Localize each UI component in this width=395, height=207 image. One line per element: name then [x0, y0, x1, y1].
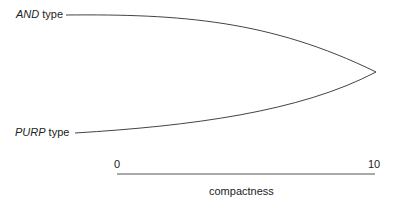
axis-min-label: 0	[114, 158, 120, 170]
axis-title: compactness	[209, 185, 274, 197]
purp-type-label: PURP type	[15, 126, 69, 138]
and-type-curve	[66, 15, 376, 72]
purp-type-curve	[75, 72, 376, 133]
axis-max-label: 10	[368, 158, 380, 170]
and-label-rest: type	[39, 8, 63, 20]
and-label-italic: AND	[16, 8, 39, 20]
and-type-label: AND type	[16, 8, 63, 20]
diagram-canvas	[0, 0, 395, 207]
purp-label-rest: type	[46, 126, 70, 138]
purp-label-italic: PURP	[15, 126, 46, 138]
